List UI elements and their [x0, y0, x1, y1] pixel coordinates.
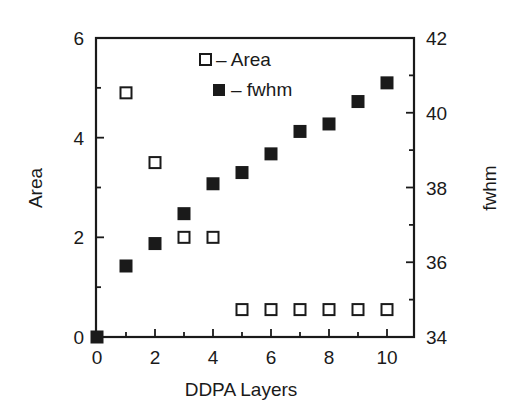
x-tick-label: 6	[266, 347, 277, 368]
legend: – Area – fwhm	[200, 49, 292, 100]
fwhm-marker	[91, 331, 104, 344]
fwhm-marker	[294, 125, 307, 138]
area-marker	[121, 87, 132, 98]
right-y-tick-label: 38	[426, 178, 447, 199]
axis-ticks	[96, 75, 414, 337]
fwhm-marker	[236, 166, 249, 179]
right-y-axis-title: fwhm	[479, 165, 500, 210]
legend-filled-square-icon	[213, 84, 225, 96]
x-tick-labels: 0246810	[92, 347, 398, 368]
right-y-tick-label: 40	[426, 103, 447, 124]
area-marker	[237, 304, 248, 315]
legend-label-area: – Area	[216, 49, 271, 70]
legend-label-fwhm: – fwhm	[231, 79, 292, 100]
area-marker	[324, 304, 335, 315]
fwhm-marker	[207, 177, 220, 190]
x-axis-title: DDPA Layers	[185, 379, 298, 400]
left-y-tick-label: 6	[73, 28, 84, 49]
fwhm-marker	[149, 237, 162, 250]
right-y-tick-label: 34	[426, 327, 448, 348]
area-marker	[266, 304, 277, 315]
fwhm-marker	[265, 147, 278, 160]
x-tick-label: 0	[92, 347, 103, 368]
left-y-tick-label: 2	[73, 227, 84, 248]
left-y-tick-label: 4	[73, 128, 84, 149]
fwhm-marker	[352, 95, 365, 108]
right-y-tick-label: 36	[426, 252, 447, 273]
x-tick-label: 4	[208, 347, 219, 368]
area-marker	[150, 157, 161, 168]
area-marker	[295, 304, 306, 315]
fwhm-marker	[381, 76, 394, 89]
area-marker	[208, 232, 219, 243]
legend-open-square-icon	[200, 54, 211, 65]
left-y-tick-labels: 0246	[73, 28, 84, 348]
dual-axis-scatter-chart: 0246 3436384042 0246810 DDPA Layers Area…	[0, 0, 527, 418]
x-tick-label: 10	[376, 347, 397, 368]
fwhm-marker	[323, 117, 336, 130]
left-y-tick-label: 0	[73, 327, 84, 348]
area-marker	[179, 232, 190, 243]
right-y-tick-label: 42	[426, 28, 447, 49]
fwhm-marker	[178, 207, 191, 220]
left-y-axis-title: Area	[25, 168, 46, 209]
area-marker	[382, 304, 393, 315]
data-points	[91, 76, 394, 343]
x-tick-label: 8	[324, 347, 335, 368]
x-tick-label: 2	[150, 347, 161, 368]
right-y-tick-labels: 3436384042	[426, 28, 448, 348]
fwhm-marker	[120, 259, 133, 272]
area-marker	[353, 304, 364, 315]
